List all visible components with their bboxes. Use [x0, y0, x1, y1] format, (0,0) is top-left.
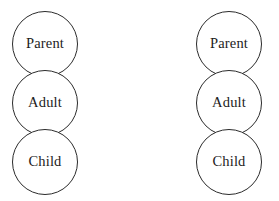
ego-state-circle-child[interactable]: Child — [12, 129, 78, 195]
ego-state-circle-parent[interactable]: Parent — [196, 11, 262, 77]
ego-state-label: Child — [213, 154, 246, 169]
ego-state-label: Parent — [26, 36, 64, 51]
left-ego-state-stack: Parent Adult Child — [6, 0, 86, 201]
ego-state-label: Adult — [28, 95, 62, 110]
ego-state-circle-parent[interactable]: Parent — [12, 11, 78, 77]
ego-state-circle-adult[interactable]: Adult — [12, 70, 78, 136]
ego-state-circle-adult[interactable]: Adult — [196, 70, 262, 136]
ego-state-label: Adult — [212, 95, 246, 110]
ego-state-label: Child — [29, 154, 62, 169]
right-ego-state-stack: Parent Adult Child — [190, 0, 270, 201]
ego-state-label: Parent — [210, 36, 248, 51]
diagram-canvas: Parent Adult Child Parent Adult Child — [0, 0, 279, 201]
ego-state-circle-child[interactable]: Child — [196, 129, 262, 195]
